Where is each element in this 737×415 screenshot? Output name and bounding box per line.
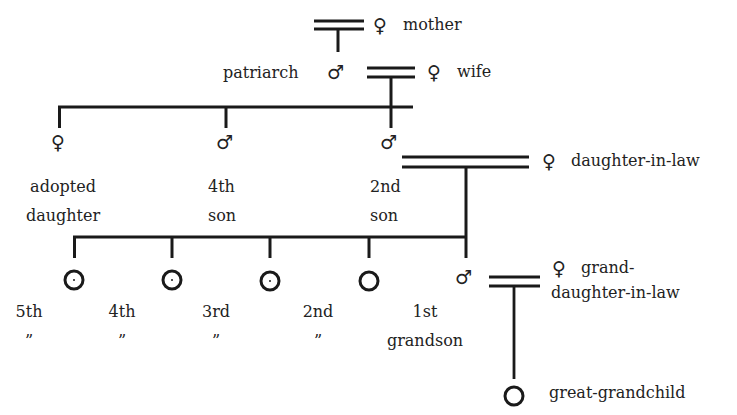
great-grandchild-label: great-grandchild: [549, 385, 685, 401]
adopted-daughter-label-line2: daughter: [18, 201, 108, 230]
1st-grandson-label-line1: 1st: [378, 297, 472, 326]
adopted-daughter-label: adopted daughter: [18, 172, 108, 230]
2nd-son-label-line1: 2nd: [370, 172, 401, 201]
grandchild-2nd-label-line1: 2nd: [300, 297, 336, 326]
mother-label: mother: [403, 17, 462, 33]
marriage-2nd-son-daughter-in-law: [402, 157, 529, 258]
4th-son-label-line1: 4th: [208, 172, 236, 201]
grandchild-2nd-circle-icon: [360, 272, 378, 290]
daughter-in-law-label: daughter-in-law: [571, 153, 700, 169]
grandchild-3rd-label-line1: 3rd: [199, 297, 233, 326]
1st-grandson-label: 1st grandson: [378, 297, 472, 355]
mother-female-icon: ♀: [373, 16, 387, 35]
granddaughter-in-law-label-line2: daughter-in-law: [551, 285, 680, 301]
4th-son-male-icon: ♂: [216, 133, 233, 152]
2nd-son-label: 2nd son: [370, 172, 401, 230]
2nd-son-label-line2: son: [370, 201, 401, 230]
marriage-mother-patriarch-father: [314, 21, 364, 52]
marriage-patriarch-wife: [367, 68, 415, 128]
great-grandchild-circle-icon: [505, 387, 523, 405]
adopted-daughter-female-icon: ♀: [51, 133, 65, 152]
granddaughter-in-law-label-line1: grand-: [581, 260, 634, 276]
grandchild-5th-label: 5th ”: [12, 297, 46, 355]
1st-grandson-label-line2: grandson: [378, 326, 472, 355]
4th-son-label-line2: son: [208, 201, 236, 230]
4th-son-label: 4th son: [208, 172, 236, 230]
grandchild-4th-label-line2: ”: [105, 326, 139, 355]
patriarch-label: patriarch: [223, 65, 298, 81]
grandchild-5th-label-line1: 5th: [12, 297, 46, 326]
sibling-line-generation-3: [73, 236, 466, 258]
daughter-in-law-female-icon: ♀: [542, 152, 556, 171]
wife-label: wife: [457, 64, 491, 80]
granddaughter-in-law-female-icon: ♀: [552, 259, 566, 278]
grandchild-3rd-label: 3rd ”: [199, 297, 233, 355]
grandchild-4th-label: 4th ”: [105, 297, 139, 355]
sibling-line-generation-2: [58, 106, 413, 128]
2nd-son-male-icon: ♂: [380, 133, 397, 152]
grandchild-3rd-label-line2: ”: [199, 326, 233, 355]
grandchild-2nd-label-line2: ”: [300, 326, 336, 355]
grandchild-2nd-label: 2nd ”: [300, 297, 336, 355]
marriage-grandson-granddaughter-in-law: [489, 277, 540, 379]
1st-grandson-male-icon: ♂: [455, 268, 472, 287]
grandchild-4th-label-line1: 4th: [105, 297, 139, 326]
adopted-daughter-label-line1: adopted: [18, 172, 108, 201]
patriarch-male-icon: ♂: [327, 63, 344, 82]
grandchild-5th-label-line2: ”: [12, 326, 46, 355]
wife-female-icon: ♀: [427, 63, 441, 82]
